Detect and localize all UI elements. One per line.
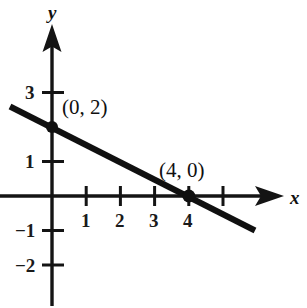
annotation-y-intercept: (0, 2) (62, 97, 108, 118)
x-tick-label-3: 3 (149, 211, 159, 230)
graph-canvas (0, 0, 307, 308)
y-tick-label-minus-2: −2 (15, 256, 35, 275)
annotation-x-intercept: (4, 0) (159, 160, 205, 181)
coordinate-plane-figure: y x 3 1 −1 −2 1 2 3 4 (0, 2) (4, 0) (0, 0, 307, 308)
y-axis-label: y (48, 3, 56, 22)
y-tick-label-1: 1 (25, 152, 35, 171)
x-tick-label-1: 1 (81, 211, 91, 230)
x-tick-label-4: 4 (183, 211, 193, 230)
x-tick-label-2: 2 (115, 211, 125, 230)
y-tick-label-3: 3 (25, 83, 35, 102)
point-marker-x-intercept (182, 190, 195, 203)
x-axis-label: x (290, 188, 300, 207)
y-tick-label-minus-1: −1 (15, 221, 35, 240)
point-marker-y-intercept (46, 121, 58, 133)
